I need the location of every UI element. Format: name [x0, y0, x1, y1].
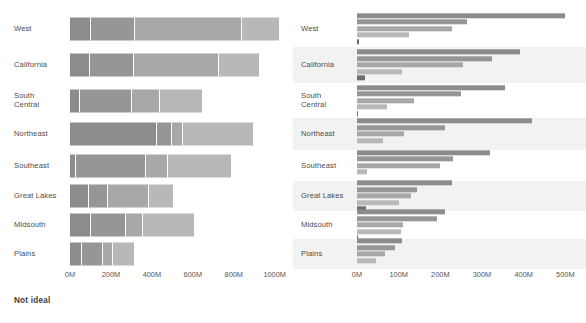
stacked-bar-northeast[interactable]: [70, 123, 253, 146]
stacked-bar-southeast[interactable]: [70, 154, 231, 177]
grouped-bar[interactable]: [357, 105, 387, 110]
stacked-bar-segment[interactable]: [242, 17, 279, 40]
stacked-bar-segment[interactable]: [172, 123, 182, 146]
stacked-bar-segment[interactable]: [103, 243, 113, 266]
grouped-axis-tick: 300M: [473, 268, 492, 282]
grouped-row-california: California: [293, 47, 586, 83]
grouped-bar[interactable]: [357, 209, 445, 214]
stacked-bar-segment[interactable]: [70, 214, 91, 237]
grouped-bar[interactable]: [357, 258, 376, 263]
stacked-row-plot-plains: [70, 239, 287, 269]
grouped-bar[interactable]: [357, 194, 411, 199]
stacked-bar-segment[interactable]: [160, 89, 202, 112]
stacked-row-great-lakes: Great Lakes: [0, 181, 293, 211]
stacked-bar-south-central[interactable]: [70, 89, 202, 112]
grouped-row-midsouth: Midsouth: [293, 211, 586, 239]
grouped-bar-set-west[interactable]: [357, 13, 582, 44]
grouped-bar-set-plains[interactable]: [357, 238, 582, 269]
grouped-bar[interactable]: [357, 13, 565, 18]
stacked-bar-segment[interactable]: [143, 214, 194, 237]
grouped-bar[interactable]: [357, 229, 401, 234]
stacked-bar-segment[interactable]: [113, 243, 134, 266]
grouped-bar-set-great-lakes[interactable]: [357, 180, 582, 211]
grouped-bar[interactable]: [357, 39, 359, 44]
stacked-bar-segment[interactable]: [70, 89, 80, 112]
grouped-bar[interactable]: [357, 138, 383, 143]
stacked-bar-segment[interactable]: [76, 154, 146, 177]
grouped-bar[interactable]: [357, 111, 358, 116]
grouped-bar[interactable]: [357, 200, 399, 205]
grouped-bar[interactable]: [357, 223, 403, 228]
grouped-bar-set-midsouth[interactable]: [357, 209, 582, 240]
grouped-bar[interactable]: [357, 187, 417, 192]
grouped-bar[interactable]: [357, 156, 453, 161]
grouped-bar[interactable]: [357, 216, 437, 221]
stacked-bar-great-lakes[interactable]: [70, 185, 173, 208]
stacked-bar-segment[interactable]: [70, 123, 157, 146]
stacked-bar-segment[interactable]: [70, 243, 82, 266]
grouped-bar[interactable]: [357, 26, 452, 31]
stacked-bar-segment[interactable]: [157, 123, 172, 146]
grouped-bar[interactable]: [357, 125, 445, 130]
stacked-bar-segment[interactable]: [168, 154, 230, 177]
grouped-bar[interactable]: [357, 69, 402, 74]
grouped-bar[interactable]: [357, 238, 402, 243]
grouped-bar[interactable]: [357, 49, 520, 54]
stacked-axis-tick: 0M: [65, 268, 75, 282]
stacked-bar-segment[interactable]: [149, 185, 174, 208]
stacked-bar-segment[interactable]: [134, 54, 219, 77]
stacked-axis-tick: 1000M: [263, 268, 286, 282]
stacked-axis-tick: 800M: [225, 268, 244, 282]
grouped-row-label-midsouth: Midsouth: [301, 220, 359, 230]
stacked-row-northeast: Northeast: [0, 118, 293, 150]
grouped-bar[interactable]: [357, 132, 404, 137]
stacked-bar-segment[interactable]: [219, 54, 259, 77]
stacked-bar-segment[interactable]: [80, 89, 132, 112]
grouped-bar[interactable]: [357, 33, 409, 38]
stacked-row-plot-great-lakes: [70, 181, 287, 211]
grouped-bar-set-northeast[interactable]: [357, 118, 582, 149]
stacked-bar-segment[interactable]: [70, 185, 89, 208]
grouped-bar[interactable]: [357, 76, 365, 81]
stacked-bar-segment[interactable]: [91, 214, 126, 237]
stacked-bar-segment[interactable]: [70, 17, 91, 40]
grouped-bar[interactable]: [357, 56, 492, 61]
stacked-bar-segment[interactable]: [146, 154, 169, 177]
grouped-bar[interactable]: [357, 163, 440, 168]
grouped-bar-set-southeast[interactable]: [357, 150, 582, 181]
grouped-bar[interactable]: [357, 98, 414, 103]
stacked-row-plot-midsouth: [70, 211, 287, 239]
grouped-bar[interactable]: [357, 170, 367, 175]
grouped-bar-set-south-central[interactable]: [357, 85, 582, 116]
stacked-row-california: California: [0, 47, 293, 83]
grouped-bar[interactable]: [357, 252, 385, 257]
stacked-bar-segment[interactable]: [135, 17, 241, 40]
grouped-row-west: West: [293, 10, 586, 47]
grouped-axis-tick: 100M: [389, 268, 408, 282]
grouped-bar[interactable]: [357, 91, 461, 96]
stacked-bar-segment[interactable]: [89, 185, 107, 208]
stacked-bar-west[interactable]: [70, 17, 279, 40]
stacked-bar-segment[interactable]: [91, 17, 135, 40]
grouped-row-label-south-central: South Central: [301, 91, 359, 110]
stacked-bar-segment[interactable]: [90, 54, 134, 77]
grouped-bar[interactable]: [357, 245, 395, 250]
grouped-bar-chart-panel: WestCaliforniaSouth CentralNortheastSout…: [293, 0, 586, 323]
grouped-bar[interactable]: [357, 150, 490, 155]
stacked-bar-california[interactable]: [70, 54, 259, 77]
stacked-bar-segment[interactable]: [126, 214, 142, 237]
stacked-bar-segment[interactable]: [132, 89, 160, 112]
stacked-bar-segment[interactable]: [70, 54, 90, 77]
grouped-bar[interactable]: [357, 63, 463, 68]
grouped-bar-set-california[interactable]: [357, 49, 582, 80]
grouped-bar[interactable]: [357, 118, 532, 123]
stacked-bar-segment[interactable]: [108, 185, 149, 208]
stacked-bar-segment[interactable]: [82, 243, 102, 266]
grouped-bar[interactable]: [357, 85, 505, 90]
stacked-row-plot-southeast: [70, 150, 287, 181]
stacked-bar-midsouth[interactable]: [70, 214, 194, 237]
grouped-bar[interactable]: [357, 180, 452, 185]
grouped-bar[interactable]: [357, 19, 467, 24]
stacked-bar-plains[interactable]: [70, 243, 134, 266]
stacked-bar-segment[interactable]: [183, 123, 254, 146]
